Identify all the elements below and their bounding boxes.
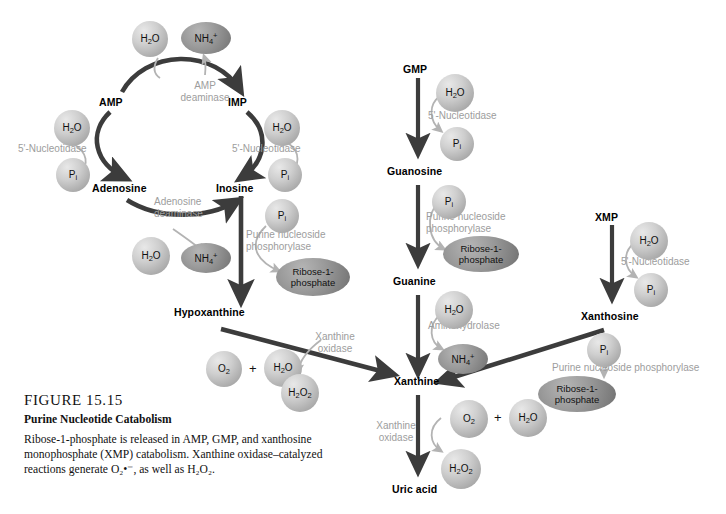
enzyme-adenosine-deaminase: Adenosine deaminase: [154, 196, 203, 219]
molecule-peroxide-xo-uric: H2O2: [441, 449, 481, 489]
formula-phosphate: Pi: [445, 196, 453, 209]
molecule-water-nucleotidase-amp: H2O: [54, 110, 90, 146]
molecule-ammonium-amp-deaminase: NH4+: [181, 22, 231, 54]
enzyme-xo-uric-line2: oxidase: [379, 432, 413, 443]
molecule-water-nucleotidase-imp: H2O: [264, 110, 300, 146]
formula-phosphate: Pi: [278, 210, 286, 223]
formula-phosphate: Pi: [647, 284, 655, 297]
formula-ribose1p-line1: Ribose-1-: [460, 243, 501, 254]
molecule-phosphate-nucleotidase-gmp: Pi: [440, 127, 474, 161]
formula-oxygen: O2: [218, 363, 230, 376]
molecule-ribose-1-phosphate-guanosine: Ribose-1-phosphate: [443, 236, 519, 272]
enzyme-adenosine-deaminase-line2: deaminase: [154, 208, 203, 219]
formula-water: H2O: [62, 122, 81, 135]
formula-ribose1p-line2: phosphate: [555, 394, 599, 405]
molecule-phosphate-nucleotidase-xmp: Pi: [634, 273, 668, 307]
formula-ribose1p-line2: phosphate: [459, 254, 503, 265]
enzyme-amp-deaminase-line2: deaminase: [181, 92, 230, 103]
molecule-water-amp-deaminase: H2O: [132, 21, 168, 57]
formula-phosphate: Pi: [600, 344, 608, 357]
figure-body: Ribose-1-phosphate is released in AMP, G…: [24, 432, 354, 478]
formula-phosphate: Pi: [281, 169, 289, 182]
molecule-phosphate-nucleotidase-imp: Pi: [268, 158, 302, 192]
label-amp: AMP: [99, 96, 123, 108]
plus-sign-xo-hypoxanthine: +: [249, 361, 257, 376]
enzyme-pnp-guanosine-line2: phosphorylase: [426, 223, 491, 234]
enzyme-amp-deaminase-line1: AMP: [194, 80, 216, 91]
molecule-phosphate-pnp-inosine: Pi: [265, 199, 299, 233]
enzyme-xo-uric-line1: Xanthine: [376, 420, 415, 431]
molecule-water-nucleotidase-gmp: H2O: [436, 74, 474, 112]
label-guanosine: Guanosine: [387, 165, 442, 177]
label-xanthine: Xanthine: [394, 375, 439, 387]
figure-caption: FIGURE 15.15 Purine Nucleotide Catabolis…: [24, 392, 354, 478]
formula-water: H2O: [444, 304, 463, 317]
formula-ammonium: NH4+: [194, 250, 217, 267]
formula-ammonium: NH4+: [451, 351, 474, 368]
enzyme-pnp-inosine-line2: phosphorylase: [246, 241, 311, 252]
enzyme-5-nucleotidase-gmp: 5'-Nucleotidase: [428, 110, 497, 122]
label-hypoxanthine: Hypoxanthine: [174, 306, 245, 318]
formula-water: H2O: [445, 87, 464, 100]
figure-number: FIGURE 15.15: [24, 392, 354, 409]
label-uric-acid: Uric acid: [392, 483, 437, 495]
enzyme-xanthine-oxidase-uric: Xanthine oxidase: [368, 420, 424, 443]
formula-ribose1p-line1: Ribose-1-: [556, 383, 597, 394]
figure-canvas: AMP IMP Adenosine Inosine Hypoxanthine G…: [0, 0, 726, 514]
molecule-phosphate-nucleotidase-amp: Pi: [56, 158, 90, 192]
molecule-water-xo-uric: H2O: [509, 399, 547, 437]
formula-phosphate: Pi: [453, 138, 461, 151]
molecule-oxygen-xo-hypoxanthine: O2: [206, 351, 242, 387]
formula-water: H2O: [272, 122, 291, 135]
label-inosine: Inosine: [216, 182, 253, 194]
molecule-ammonium-adenosine-deaminase: NH4+: [181, 243, 231, 273]
molecule-phosphate-pnp-guanosine: Pi: [432, 185, 466, 219]
label-adenosine: Adenosine: [92, 182, 147, 194]
formula-water: H2O: [273, 362, 292, 375]
formula-ammonium: NH4+: [194, 30, 217, 47]
molecule-oxygen-xo-uric: O2: [450, 400, 488, 438]
formula-water: H2O: [518, 412, 537, 425]
molecule-water-nucleotidase-xmp: H2O: [630, 222, 668, 260]
figure-title: Purine Nucleotide Catabolism: [24, 413, 354, 425]
formula-water: H2O: [639, 235, 658, 248]
enzyme-adenosine-deaminase-line1: Adenosine: [154, 196, 201, 207]
label-gmp: GMP: [403, 63, 427, 75]
formula-ribose1p-line1: Ribose-1-: [292, 266, 333, 277]
formula-water: H2O: [140, 33, 159, 46]
enzyme-amp-deaminase: AMP deaminase: [172, 80, 238, 103]
enzyme-pnp-xanthosine: Purine nucleoside phosphorylase: [552, 362, 699, 374]
enzyme-5-nucleotidase-imp: 5'-Nucleotidase: [232, 143, 301, 155]
formula-peroxide: H2O2: [449, 463, 472, 476]
molecule-ribose-1-phosphate-xanthosine: Ribose-1-phosphate: [538, 376, 616, 412]
formula-phosphate: Pi: [69, 169, 77, 182]
label-xanthosine: Xanthosine: [581, 310, 639, 322]
formula-water: H2O: [141, 250, 160, 263]
label-xmp: XMP: [595, 211, 618, 223]
label-guanine: Guanine: [393, 275, 436, 287]
enzyme-xo-hypo-line1: Xanthine: [315, 331, 354, 342]
enzyme-xanthine-oxidase-hypoxanthine: Xanthine oxidase: [305, 331, 365, 354]
formula-oxygen: O2: [463, 413, 475, 426]
molecule-water-aminohydrolase: H2O: [435, 291, 473, 329]
enzyme-xo-hypo-line2: oxidase: [318, 343, 352, 354]
molecule-ribose-1-phosphate-inosine: Ribose-1-phosphate: [276, 258, 350, 296]
molecule-water-adenosine-deaminase: H2O: [132, 237, 170, 275]
molecule-phosphate-pnp-xanthosine: Pi: [587, 333, 621, 367]
molecule-ammonium-aminohydrolase: NH4+: [438, 344, 488, 374]
plus-sign-xo-uric: +: [494, 410, 502, 425]
formula-ribose1p-line2: phosphate: [291, 277, 335, 288]
